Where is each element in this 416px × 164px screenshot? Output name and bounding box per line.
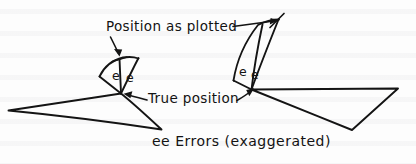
right-triangle-outline xyxy=(252,89,399,131)
leader-position-as-plotted-left xyxy=(111,37,123,57)
annotation-position-as-plotted: Position as plotted xyxy=(106,20,237,34)
error-symbol-left-second: e xyxy=(126,72,134,85)
error-symbol-left-first: e xyxy=(112,70,120,83)
leader-arrowhead-left xyxy=(114,49,122,57)
error-symbol-right-first: e xyxy=(239,66,247,79)
annotation-true-position: True position xyxy=(148,92,239,106)
error-symbol-right-second: e xyxy=(251,69,259,82)
figure-caption: ee Errors (exaggerated) xyxy=(152,134,331,148)
left-triangle-outline xyxy=(9,94,162,130)
errors-diagram-figure: Position as plotted True position ee Err… xyxy=(0,0,416,164)
left-figure-group xyxy=(9,57,162,130)
right-fan-spoke-outer xyxy=(234,81,252,90)
